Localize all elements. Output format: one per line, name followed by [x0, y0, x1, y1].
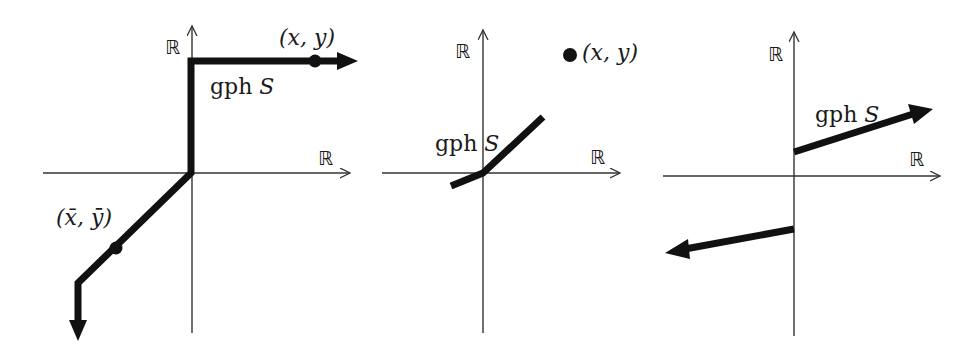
panel-1-x-axis-label: ℝ: [318, 149, 333, 168]
arrowhead-down-icon: [69, 320, 87, 341]
panel-1-graph-label: gph S: [210, 76, 274, 98]
arrowhead-upright-icon: [908, 104, 933, 124]
panel-3-x-axis-label: ℝ: [909, 150, 924, 169]
panel-3-axes: [663, 32, 940, 336]
panel-1-point-bar-label: (x̄, ȳ): [56, 207, 112, 229]
isolated-point-x-y: [563, 48, 577, 62]
figure: ℝ ℝ gph S (x, y) (x̄, ȳ) ℝ ℝ gph S (x, y…: [0, 0, 973, 360]
panel-2-x-axis-label: ℝ: [590, 148, 605, 167]
arrowhead-left-icon: [665, 239, 690, 259]
arrowhead-right-icon: [337, 52, 358, 70]
point-xbar-ybar: [110, 242, 123, 255]
panel-2-graph: [451, 48, 577, 186]
panel-1-y-axis-label: ℝ: [165, 38, 180, 57]
panel-1-point-label: (x, y): [279, 27, 335, 49]
panel-2-axes: [382, 30, 620, 333]
diagram-canvas: [0, 0, 973, 360]
point-x-y: [309, 55, 322, 68]
panel-2-y-axis-label: ℝ: [455, 42, 470, 61]
panel-2-graph-label: gph S: [435, 133, 499, 155]
panel-3-graph: [665, 104, 933, 259]
panel-2-point-label: (x, y): [582, 42, 638, 64]
panel-3-graph-label: gph S: [815, 104, 879, 126]
panel-3-y-axis-label: ℝ: [768, 45, 783, 64]
panel-1-axes: [43, 26, 350, 333]
